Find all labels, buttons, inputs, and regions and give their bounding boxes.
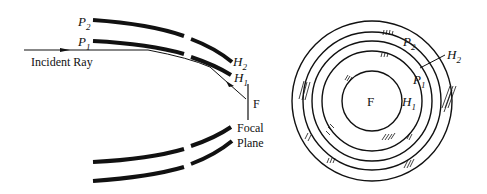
focal-plane-label-line2: Plane xyxy=(237,136,264,150)
mirror-p1-upper xyxy=(93,41,184,54)
label-p2: P2 xyxy=(77,14,91,32)
ring-label-h2: H2 xyxy=(446,47,461,65)
label-h1: H1 xyxy=(233,70,248,88)
reflected-ray-arrow-icon xyxy=(226,81,234,87)
incident-ray-label: Incident Ray xyxy=(31,55,93,69)
incident-ray-arrow-icon xyxy=(60,48,70,52)
mirror-p1-lower xyxy=(93,149,184,162)
side-view-diagram xyxy=(24,20,248,181)
focal-plane-label-line1: Focal xyxy=(237,121,264,135)
mirror-p2-upper xyxy=(93,20,184,36)
mirror-p2-lower xyxy=(93,167,184,181)
ring-label-p1: P1 xyxy=(412,72,425,90)
wolter-telescope-figure: P2 P1 H2 H1 Incident Ray F Focal Plane F… xyxy=(0,0,487,194)
ring-label-p2: P2 xyxy=(402,34,416,52)
mirror-h1-lower xyxy=(191,127,231,146)
focus-label-left: F xyxy=(253,97,260,111)
label-p1: P1 xyxy=(77,34,90,52)
focus-label-right: F xyxy=(367,94,374,109)
mirror-h1-upper xyxy=(191,57,231,75)
ring-label-h1: H1 xyxy=(401,94,416,112)
